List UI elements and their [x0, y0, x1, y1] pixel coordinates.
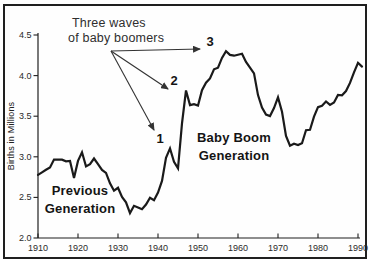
x-tick-label: 1930: [108, 243, 128, 253]
births-line-chart: 2.02.53.03.54.04.51910192019301940195019…: [0, 0, 371, 265]
label-baby-boom-generation: Baby Boom Generation: [193, 129, 275, 165]
y-tick-label: 4.0: [19, 71, 32, 81]
previous-generation-line-1: Previous: [40, 182, 120, 200]
baby-boom-line-2: Generation: [193, 147, 275, 165]
annotation-line-1: Three waves: [68, 16, 164, 31]
y-tick-label: 4.5: [19, 30, 32, 40]
x-tick-label: 1920: [68, 243, 88, 253]
label-previous-generation: Previous Generation: [40, 182, 120, 218]
x-tick-label: 1960: [228, 243, 248, 253]
y-tick-label: 2.0: [19, 233, 32, 243]
x-tick-label: 1940: [148, 243, 168, 253]
y-tick-label: 3.0: [19, 152, 32, 162]
annotation-line-2: of baby boomers: [68, 31, 164, 46]
wave-arrows: [111, 49, 200, 130]
wave-label-2: 2: [170, 73, 177, 88]
wave-arrow-2: [111, 51, 168, 89]
x-tick-label: 1980: [308, 243, 328, 253]
x-tick-label: 1970: [268, 243, 288, 253]
x-tick-label: 1910: [28, 243, 48, 253]
wave-arrow-3: [111, 49, 200, 51]
y-axis-ticks: 2.02.53.03.54.04.5: [19, 30, 38, 243]
wave-arrow-1: [111, 51, 154, 130]
y-tick-label: 2.5: [19, 192, 32, 202]
y-tick-label: 3.5: [19, 111, 32, 121]
x-tick-label: 1990: [348, 243, 368, 253]
y-axis-title: Births in Millions: [6, 102, 16, 171]
x-tick-label: 1950: [188, 243, 208, 253]
wave-label-1: 1: [156, 131, 163, 146]
baby-boom-line-1: Baby Boom: [193, 129, 275, 147]
figure-page: 2.02.53.03.54.04.51910192019301940195019…: [0, 0, 371, 265]
wave-label-3: 3: [206, 34, 213, 49]
previous-generation-line-2: Generation: [40, 200, 120, 218]
annotation-three-waves: Three waves of baby boomers: [68, 16, 164, 46]
x-axis-ticks: 191019201930194019501960197019801990: [28, 234, 368, 253]
